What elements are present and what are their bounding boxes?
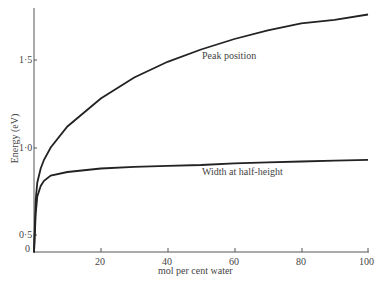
x-tick-0: 0 bbox=[25, 243, 30, 254]
y-tick-0-5: 0·5 bbox=[19, 229, 32, 240]
x-tick-100: 100 bbox=[359, 256, 374, 267]
x-axis-label: mol per cent water bbox=[158, 265, 233, 276]
width-half-height-curve bbox=[34, 160, 368, 253]
axes bbox=[34, 8, 369, 252]
width-annotation: Width at half-height bbox=[202, 166, 283, 177]
x-tick-20: 20 bbox=[95, 256, 105, 267]
peak-position-curve bbox=[34, 15, 368, 253]
x-tick-80: 80 bbox=[296, 256, 306, 267]
y-axis-label: Energy (eV) bbox=[9, 109, 20, 169]
y-tick-1-0: 1·0 bbox=[19, 142, 32, 153]
peak-position-annotation: Peak position bbox=[202, 50, 256, 61]
y-tick-1-5: 1·5 bbox=[19, 54, 32, 65]
chart-plot-area bbox=[0, 0, 380, 282]
